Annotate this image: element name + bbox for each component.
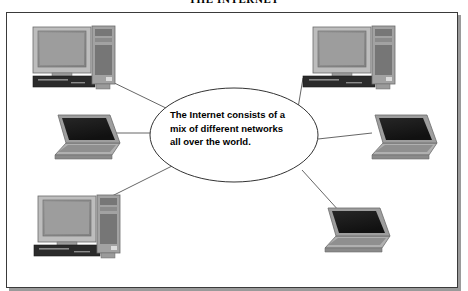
connection-line-laptop-bottom-right (302, 170, 340, 212)
caption-line-1: The Internet consists of a (170, 108, 310, 122)
caption-line-3: all over the world. (170, 135, 310, 149)
desktop-top-right (303, 26, 395, 89)
connection-line-desktop-top-right (298, 78, 303, 108)
caption-line-2: mix of different networks (170, 122, 310, 136)
connection-line-desktop-bottom-left (112, 166, 172, 196)
laptop-right (372, 115, 437, 159)
connection-line-laptop-right (318, 133, 372, 139)
desktop-top-left (33, 26, 115, 89)
laptop-bottom-right (325, 208, 390, 252)
internet-cloud-caption: The Internet consists of a mix of differ… (170, 108, 310, 149)
laptop-left (55, 115, 120, 159)
desktop-bottom-left (34, 195, 120, 258)
